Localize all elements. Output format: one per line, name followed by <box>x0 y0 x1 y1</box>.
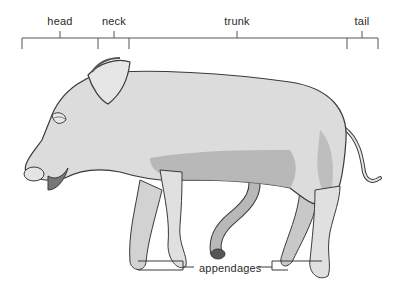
region-label-tail: tail <box>355 15 370 27</box>
pig-illustration <box>0 0 404 307</box>
region-label-trunk: trunk <box>224 15 249 27</box>
region-scale-bar <box>22 31 378 49</box>
fore-leg-near <box>160 170 186 268</box>
snout <box>24 167 44 181</box>
fetal-pig-diagram: head neck trunk tail appendages <box>0 0 404 307</box>
pig-body <box>25 71 346 206</box>
tail <box>344 128 380 181</box>
fore-leg-far <box>130 180 162 270</box>
appendages-label: appendages <box>199 262 262 274</box>
region-label-neck: neck <box>102 15 126 27</box>
region-label-head: head <box>47 15 72 27</box>
